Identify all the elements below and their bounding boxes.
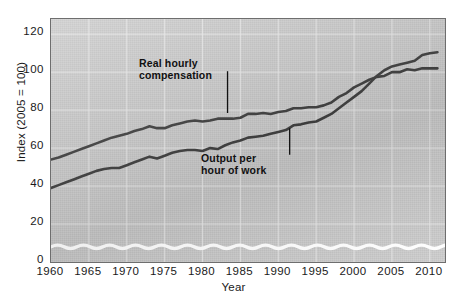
x-tick-1960: 1960 bbox=[30, 265, 70, 277]
x-axis-title: Year bbox=[0, 281, 467, 293]
x-tick-1985: 1985 bbox=[219, 265, 259, 277]
y-tick-20: 20 bbox=[0, 215, 44, 227]
x-tick-1980: 1980 bbox=[182, 265, 222, 277]
x-tick-2005: 2005 bbox=[371, 265, 411, 277]
x-tick-1995: 1995 bbox=[295, 265, 335, 277]
chart-figure: 120100806040200 Index (2005 = 100) Real … bbox=[0, 0, 467, 298]
annotation-output-per-hour-of-work: Output per hour of work bbox=[201, 152, 266, 177]
x-tick-2010: 2010 bbox=[409, 265, 449, 277]
annotation-real-hourly-compensation: Real hourly compensation bbox=[139, 57, 212, 82]
x-tick-1990: 1990 bbox=[257, 265, 297, 277]
y-tick-0: 0 bbox=[0, 253, 44, 265]
x-tick-1975: 1975 bbox=[144, 265, 184, 277]
plot-area bbox=[50, 18, 446, 263]
x-tick-1965: 1965 bbox=[68, 265, 108, 277]
x-tick-2000: 2000 bbox=[333, 265, 373, 277]
x-tick-1970: 1970 bbox=[106, 265, 146, 277]
annotation-leader-lines bbox=[51, 19, 445, 262]
y-axis-title: Index (2005 = 100) bbox=[15, 27, 27, 197]
